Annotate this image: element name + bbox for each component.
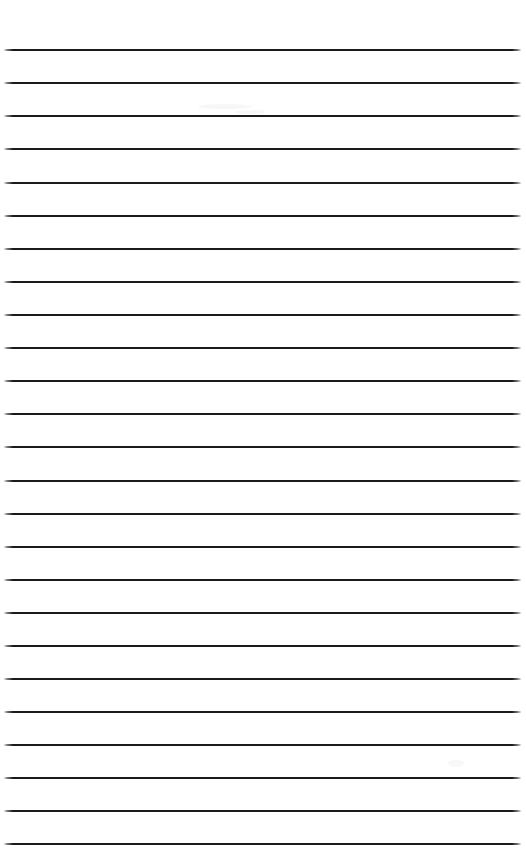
rule-line (4, 380, 521, 382)
rule-line (4, 446, 521, 448)
rule-line (4, 248, 521, 250)
rule-line (4, 148, 521, 150)
rule-line (4, 347, 521, 349)
rule-line (4, 82, 521, 84)
rule-line (4, 843, 521, 845)
rule-line (4, 314, 521, 316)
rule-line (4, 49, 521, 51)
rule-line (4, 413, 521, 415)
rule-line (4, 115, 521, 117)
rule-line (4, 215, 521, 217)
paper-smudge (448, 760, 464, 767)
rule-line (4, 546, 521, 548)
rule-line (4, 480, 521, 482)
paper-smudge (198, 104, 252, 109)
rule-line (4, 612, 521, 614)
rule-line (4, 281, 521, 283)
rule-line (4, 678, 521, 680)
rule-line (4, 513, 521, 515)
paper-smudge (236, 110, 266, 114)
rule-line (4, 777, 521, 779)
rule-line (4, 645, 521, 647)
rule-line (4, 711, 521, 713)
rule-line (4, 810, 521, 812)
lined-paper-sheet (0, 0, 526, 865)
rule-line (4, 579, 521, 581)
rule-line (4, 744, 521, 746)
rule-line (4, 182, 521, 184)
